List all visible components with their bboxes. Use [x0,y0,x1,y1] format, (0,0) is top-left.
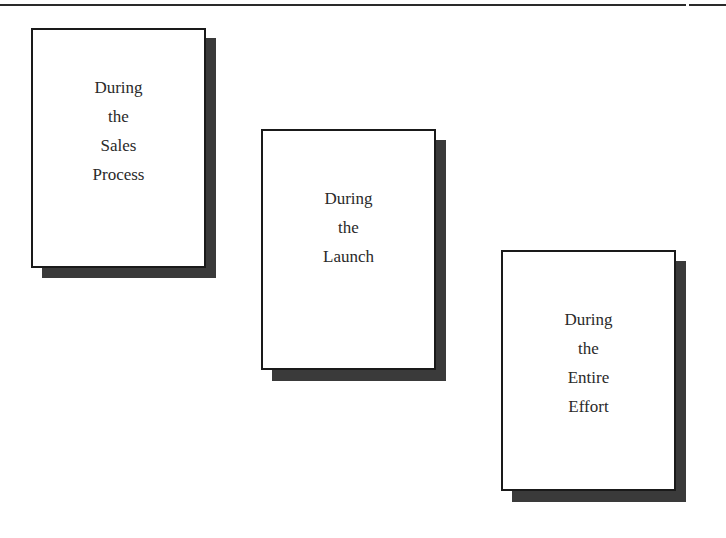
card-line: During [263,184,434,213]
card-text: During the Entire Effort [503,305,674,421]
card-line: the [263,213,434,242]
top-rule-end [689,4,726,6]
card-line: During [503,305,674,334]
card-text: During the Sales Process [33,73,204,189]
card-line: Launch [263,242,434,271]
card-line: During [33,73,204,102]
card-line: Process [33,160,204,189]
card-line: Entire [503,363,674,392]
card-launch: During the Launch [261,129,436,370]
card-text: During the Launch [263,184,434,271]
card-line: Effort [503,392,674,421]
card-line: the [503,334,674,363]
card-line: the [33,102,204,131]
top-rule [0,4,686,6]
card-entire-effort: During the Entire Effort [501,250,676,491]
card-sales-process: During the Sales Process [31,28,206,268]
card-line: Sales [33,131,204,160]
